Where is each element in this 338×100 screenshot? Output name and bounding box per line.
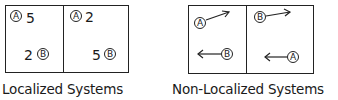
non-localized-right-particle-bottom: A [287,51,299,63]
non-localized-left-particle-top: A [194,17,206,29]
localized-left-particle-a: A [10,10,22,22]
localized-left-a-count: 5 [26,11,35,25]
localized-right-a-count: 2 [85,10,94,24]
non-localized-left-particle-bottom: B [221,48,233,60]
non-localized-divider [246,6,247,73]
localized-left-b-count: 2 [24,48,33,62]
localized-left-particle-b: B [37,48,49,60]
localized-right-particle-a: A [70,10,82,22]
localized-right-b-count: 5 [92,48,101,62]
non-localized-system-box [188,5,314,74]
localized-divider [63,6,64,72]
non-localized-caption: Non-Localized Systems [172,81,324,97]
localized-caption: Localized Systems [2,81,123,97]
arrow-left-icon [0,0,1,1]
localized-right-particle-b: B [104,48,116,60]
non-localized-right-particle-top: B [254,11,266,23]
